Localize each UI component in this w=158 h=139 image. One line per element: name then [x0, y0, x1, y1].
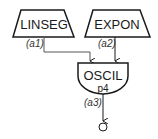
signal-flow-diagram: LINSEG EXPON (a1) (a2) OSCIL p4 (a3): [0, 0, 158, 139]
expon-label: EXPON: [94, 17, 140, 32]
oscil-label: OSCIL: [83, 68, 122, 83]
edge-a3-label: (a3): [84, 97, 102, 108]
edge-a1: [44, 37, 90, 61]
linseg-label: LINSEG: [20, 17, 68, 32]
oscil-sublabel: p4: [97, 83, 109, 94]
linseg-node: LINSEG: [13, 10, 74, 37]
oscil-node: OSCIL p4: [78, 63, 128, 94]
edge-a2-label: (a2): [98, 38, 116, 49]
expon-node: EXPON: [85, 10, 150, 37]
edge-a1-label: (a1): [26, 38, 44, 49]
output-circle: [99, 123, 107, 131]
